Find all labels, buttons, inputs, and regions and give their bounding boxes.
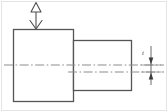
datum-feature-symbol — [30, 3, 42, 30]
datum-triangle-icon — [31, 3, 41, 13]
dimension-arrow-lower-icon — [149, 73, 154, 80]
tolerance-dimension: t — [141, 46, 161, 85]
technical-drawing-canvas: t — [0, 0, 168, 112]
drawing-svg: t — [0, 0, 168, 112]
tolerance-label: t — [142, 49, 145, 57]
dimension-arrow-upper-icon — [149, 58, 154, 65]
